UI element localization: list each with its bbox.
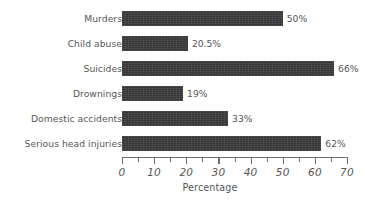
category-label: Child abuse <box>68 36 122 51</box>
bar-value-label: 19% <box>187 86 207 101</box>
x-axis-title: Percentage <box>0 182 365 193</box>
x-axis-tick-major <box>186 157 187 164</box>
x-axis-tick-major <box>283 157 284 164</box>
category-label: Serious head injuries <box>25 136 122 151</box>
bar-row: Domestic accidents 33% <box>0 111 365 136</box>
bar-row: Murders 50% <box>0 11 365 36</box>
category-label: Murders <box>84 11 122 26</box>
x-axis-tick-label: 50 <box>276 166 290 178</box>
x-axis-tick-minor <box>170 157 171 162</box>
x-axis-tick-label: 10 <box>147 166 161 178</box>
x-axis-tick-major <box>122 157 123 164</box>
plot-area: Murders 50% Child abuse 20.5% Suicides 6… <box>0 0 365 160</box>
x-axis-tick-minor <box>267 157 268 162</box>
bar-value-label: 50% <box>287 11 307 26</box>
bar-row: Child abuse 20.5% <box>0 36 365 61</box>
x-axis-tick-label: 70 <box>340 166 354 178</box>
x-axis-tick-major <box>251 157 252 164</box>
bar <box>122 136 321 151</box>
x-axis-tick-minor <box>299 157 300 162</box>
bar <box>122 36 188 51</box>
category-label: Suicides <box>84 61 122 76</box>
x-axis: 0 10 20 30 40 50 60 70 Percentage <box>0 157 365 200</box>
x-axis-tick-minor <box>235 157 236 162</box>
bar <box>122 86 183 101</box>
bar-value-label: 66% <box>338 61 358 76</box>
x-axis-tick-major <box>347 157 348 164</box>
x-axis-tick-label: 30 <box>212 166 226 178</box>
bar-chart: Murders 50% Child abuse 20.5% Suicides 6… <box>0 0 365 200</box>
x-axis-tick-label: 20 <box>179 166 193 178</box>
bar-row: Drownings 19% <box>0 86 365 111</box>
bar-row: Suicides 66% <box>0 61 365 86</box>
category-label: Domestic accidents <box>31 111 122 126</box>
x-axis-tick-label: 60 <box>308 166 322 178</box>
bar-value-label: 20.5% <box>192 36 221 51</box>
x-axis-tick-label: 0 <box>119 166 126 178</box>
category-label: Drownings <box>73 86 122 101</box>
bar <box>122 11 283 26</box>
x-axis-tick-major <box>154 157 155 164</box>
x-axis-tick-major <box>315 157 316 164</box>
bar-value-label: 33% <box>232 111 252 126</box>
x-axis-tick-minor <box>202 157 203 162</box>
x-axis-tick-label: 40 <box>244 166 258 178</box>
bar-value-label: 62% <box>325 136 345 151</box>
x-axis-tick-minor <box>331 157 332 162</box>
bar <box>122 111 228 126</box>
x-axis-tick-minor <box>138 157 139 162</box>
x-axis-title-text: Percentage <box>183 182 238 193</box>
bar <box>122 61 334 76</box>
x-axis-tick-major <box>218 157 219 164</box>
